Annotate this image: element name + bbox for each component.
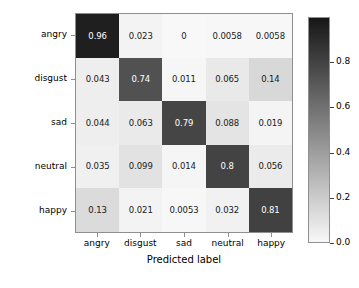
x-tick-mark <box>97 233 98 237</box>
colorbar-tick-mark <box>330 243 334 244</box>
heatmap-cell: 0.065 <box>206 58 249 102</box>
heatmap-cell: 0.13 <box>76 188 119 232</box>
y-tick-label-disgust: disgust <box>34 74 67 83</box>
heatmap-cell-value: 0.019 <box>258 119 282 128</box>
y-tick-mark <box>71 79 75 80</box>
heatmap-cell-value: 0.088 <box>215 119 239 128</box>
colorbar-tick-label: 0.0 <box>336 238 350 247</box>
heatmap-cell: 0.8 <box>206 145 249 189</box>
x-tick-mark <box>271 233 272 237</box>
colorbar-tick-label: 0.8 <box>336 57 350 66</box>
heatmap-cell: 0.0058 <box>249 14 292 58</box>
heatmap-cell: 0.099 <box>119 145 162 189</box>
y-tick-label-happy: happy <box>39 206 67 215</box>
colorbar-tick-label: 0.2 <box>336 193 350 202</box>
heatmap-cell: 0.019 <box>249 101 292 145</box>
colorbar-tick-mark <box>330 153 334 154</box>
colorbar-tick-label: 0.4 <box>336 148 350 157</box>
colorbar <box>308 17 330 243</box>
confusion-matrix-figure: 0.960.02300.00580.00580.0430.740.0110.06… <box>0 0 359 288</box>
heatmap-cell: 0.032 <box>206 188 249 232</box>
y-tick-label-angry: angry <box>41 30 67 39</box>
x-tick-mark <box>140 233 141 237</box>
x-tick-mark <box>228 233 229 237</box>
heatmap-cell: 0.14 <box>249 58 292 102</box>
x-axis-title: Predicted label <box>75 255 293 265</box>
heatmap-cell: 0.011 <box>162 58 205 102</box>
heatmap-cell-value: 0.0058 <box>256 32 285 41</box>
heatmap-cell: 0.035 <box>76 145 119 189</box>
heatmap-cell: 0.79 <box>162 101 205 145</box>
colorbar-tick-mark <box>330 198 334 199</box>
heatmap-cell: 0 <box>162 14 205 58</box>
heatmap-cell-value: 0.96 <box>88 32 107 41</box>
heatmap-cell-value: 0.056 <box>258 162 282 171</box>
heatmap-cell: 0.043 <box>76 58 119 102</box>
heatmap-cell-value: 0.0053 <box>169 206 198 215</box>
colorbar-tick-mark <box>330 107 334 108</box>
heatmap-cell-value: 0.8 <box>221 162 234 171</box>
heatmap-cell-value: 0.79 <box>175 119 194 128</box>
heatmap-cell-value: 0.021 <box>129 206 153 215</box>
colorbar-tick-mark <box>330 62 334 63</box>
heatmap-cell: 0.0053 <box>162 188 205 232</box>
y-tick-mark <box>71 35 75 36</box>
heatmap-grid: 0.960.02300.00580.00580.0430.740.0110.06… <box>76 14 292 232</box>
heatmap-axes: 0.960.02300.00580.00580.0430.740.0110.06… <box>75 13 293 233</box>
heatmap-cell: 0.056 <box>249 145 292 189</box>
heatmap-cell: 0.014 <box>162 145 205 189</box>
heatmap-cell-value: 0.14 <box>261 75 280 84</box>
heatmap-cell: 0.021 <box>119 188 162 232</box>
y-tick-mark <box>71 123 75 124</box>
heatmap-cell: 0.96 <box>76 14 119 58</box>
x-tick-mark <box>184 233 185 237</box>
heatmap-cell: 0.063 <box>119 101 162 145</box>
heatmap-cell-value: 0.13 <box>88 206 107 215</box>
heatmap-cell-value: 0.044 <box>86 119 110 128</box>
y-tick-label-sad: sad <box>51 118 67 127</box>
heatmap-cell: 0.81 <box>249 188 292 232</box>
colorbar-tick-label: 0.6 <box>336 102 350 111</box>
y-tick-mark <box>71 167 75 168</box>
heatmap-cell-value: 0.023 <box>129 32 153 41</box>
y-tick-mark <box>71 211 75 212</box>
heatmap-cell-value: 0.099 <box>129 162 153 171</box>
y-tick-label-neutral: neutral <box>35 162 67 171</box>
heatmap-cell-value: 0.032 <box>215 206 239 215</box>
heatmap-cell: 0.74 <box>119 58 162 102</box>
heatmap-cell-value: 0.0058 <box>213 32 242 41</box>
heatmap-cell-value: 0 <box>181 32 186 41</box>
heatmap-cell-value: 0.014 <box>172 162 196 171</box>
heatmap-cell: 0.023 <box>119 14 162 58</box>
x-tick-label-happy: happy <box>231 239 311 248</box>
heatmap-cell-value: 0.043 <box>86 75 110 84</box>
heatmap-cell: 0.0058 <box>206 14 249 58</box>
heatmap-cell: 0.088 <box>206 101 249 145</box>
heatmap-cell-value: 0.065 <box>215 75 239 84</box>
heatmap-cell-value: 0.81 <box>261 206 280 215</box>
heatmap-cell-value: 0.011 <box>172 75 196 84</box>
heatmap-cell: 0.044 <box>76 101 119 145</box>
heatmap-cell-value: 0.74 <box>132 75 151 84</box>
colorbar-gradient <box>309 18 329 242</box>
heatmap-cell-value: 0.063 <box>129 119 153 128</box>
heatmap-cell-value: 0.035 <box>86 162 110 171</box>
